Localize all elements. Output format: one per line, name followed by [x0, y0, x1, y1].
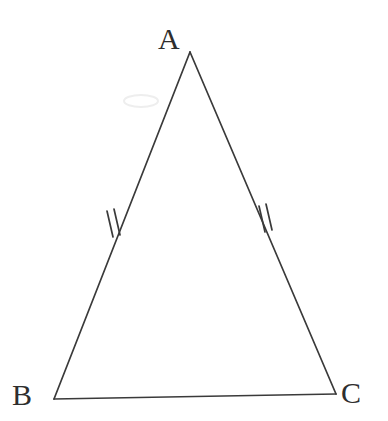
- figure-canvas: A B C: [0, 0, 388, 421]
- tick-mark-AB-2: [114, 209, 120, 235]
- edge-AB: [54, 52, 190, 399]
- vertex-label-a: A: [158, 24, 180, 54]
- tick-mark-AB-1: [107, 211, 113, 237]
- tick-mark-AC-1: [259, 206, 265, 232]
- tick-marks-AB: [107, 209, 120, 237]
- tick-mark-AC-2: [266, 204, 272, 230]
- scan-smudge-artifact: [124, 95, 158, 107]
- edge-BC: [54, 394, 336, 399]
- triangle-figure: [0, 0, 388, 421]
- vertex-label-c: C: [341, 378, 361, 408]
- vertex-label-b: B: [12, 380, 32, 410]
